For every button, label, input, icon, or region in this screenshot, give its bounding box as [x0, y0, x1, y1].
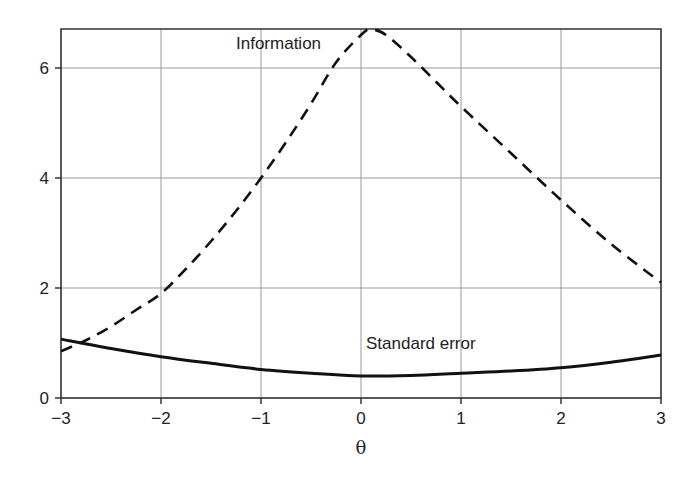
- annotations: InformationStandard error: [236, 34, 476, 353]
- y-tick-label: 4: [40, 169, 49, 188]
- x-tick-label: 3: [656, 409, 665, 428]
- ticks: −3−2−101230246: [40, 59, 666, 428]
- x-tick-label: −3: [51, 409, 70, 428]
- x-tick-label: −2: [151, 409, 170, 428]
- y-tick-label: 2: [40, 279, 49, 298]
- x-tick-label: 1: [456, 409, 465, 428]
- x-tick-label: 2: [556, 409, 565, 428]
- grid: [61, 29, 661, 398]
- x-tick-label: 0: [356, 409, 365, 428]
- chart: −3−2−101230246 InformationStandard error…: [0, 0, 698, 479]
- annotation-standard-error: Standard error: [366, 334, 476, 353]
- x-axis-label: θ: [356, 437, 367, 458]
- x-tick-label: −1: [251, 409, 270, 428]
- y-tick-label: 6: [40, 59, 49, 78]
- y-tick-label: 0: [40, 389, 49, 408]
- annotation-information: Information: [236, 34, 321, 53]
